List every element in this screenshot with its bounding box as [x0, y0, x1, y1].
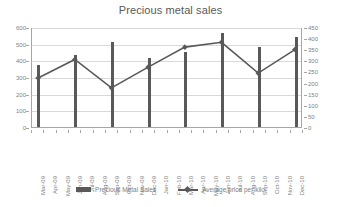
y-axis-right-tick: [304, 84, 307, 85]
x-axis-tick: [43, 130, 44, 133]
x-axis-tick: [80, 130, 81, 133]
y-axis-right-tick: [304, 95, 307, 96]
legend-label: Precious Metal Sales: [95, 186, 156, 193]
x-axis-tick: [191, 130, 192, 133]
y-axis-left-tick-label: 200: [16, 92, 26, 98]
y-axis-right-tick: [304, 61, 307, 62]
y-axis-right-tick-label: 250: [308, 69, 318, 75]
x-axis-tick: [265, 130, 266, 133]
y-axis-right-tick: [304, 50, 307, 51]
y-axis-right-tick-label: 100: [308, 103, 318, 109]
y-axis-right-tick: [304, 39, 307, 40]
x-axis-tick: [203, 130, 204, 133]
plot-area: [31, 28, 302, 128]
y-axis-left-tick: [26, 111, 29, 112]
y-axis-left-tick: [26, 95, 29, 96]
y-axis-left-tick: [26, 78, 29, 79]
line-series-average-price-per-kilo: [32, 28, 301, 127]
y-axis-right-tick: [304, 28, 307, 29]
y-axis-right-tick-label: 200: [308, 81, 318, 87]
y-axis-right-tick: [304, 106, 307, 107]
x-axis-tick: [302, 130, 303, 133]
y-axis-right-tick: [304, 72, 307, 73]
x-axis-tick: [179, 130, 180, 133]
chart-container: Precious metal sales 0100200300400500600…: [0, 0, 341, 207]
x-axis-tick: [117, 130, 118, 133]
y-axis-right-tick-label: 0: [308, 125, 311, 131]
y-axis-left-tick-label: 300: [16, 75, 26, 81]
y-axis-right-tick-label: 50: [308, 114, 315, 120]
x-axis-tick: [253, 130, 254, 133]
x-axis-tick: [130, 130, 131, 133]
y-axis-right-tick-label: 300: [308, 58, 318, 64]
y-axis-left-tick-label: 500: [16, 42, 26, 48]
y-axis-left-tick: [26, 45, 29, 46]
x-axis-tick: [240, 130, 241, 133]
y-axis-left-tick-label: 400: [16, 58, 26, 64]
y-axis-right-tick-label: 150: [308, 92, 318, 98]
x-axis-labels: Mar-09Apr-09May-09Jun-09Jul-09Aug-09Sep-…: [31, 130, 302, 178]
y-axis-left-tick-label: 600: [16, 25, 26, 31]
x-axis-tick: [142, 130, 143, 133]
x-axis-tick: [31, 130, 32, 133]
x-axis-tick: [216, 130, 217, 133]
legend-item-precious-metal-sales: Precious Metal Sales: [76, 186, 156, 193]
y-axis-left-tick: [26, 28, 29, 29]
y-axis-left-tick-label: 100: [16, 108, 26, 114]
y-axis-left: 0100200300400500600: [0, 28, 29, 128]
legend-item-average-price-per-kilo: Average price per kilo: [178, 186, 265, 193]
x-axis-tick: [105, 130, 106, 133]
x-axis-tick: [56, 130, 57, 133]
y-axis-right-tick-label: 400: [308, 36, 318, 42]
bar-swatch-icon: [76, 187, 91, 192]
x-axis-tick: [68, 130, 69, 133]
y-axis-right-tick: [304, 117, 307, 118]
x-axis-tick: [167, 130, 168, 133]
line-swatch-icon: [178, 186, 198, 193]
x-axis-tick: [154, 130, 155, 133]
y-axis-right-tick-label: 450: [308, 25, 318, 31]
chart-legend: Precious Metal Sales Average price per k…: [0, 186, 341, 193]
y-axis-left-tick: [26, 61, 29, 62]
line-marker: [35, 75, 41, 81]
chart-title: Precious metal sales: [0, 4, 341, 16]
x-axis-tick: [228, 130, 229, 133]
legend-label: Average price per kilo: [202, 186, 265, 193]
x-axis-tick: [290, 130, 291, 133]
y-axis-right: 050100150200250300350400450: [304, 28, 340, 128]
x-axis-tick: [277, 130, 278, 133]
y-axis-right-tick: [304, 128, 307, 129]
y-axis-right-tick-label: 350: [308, 47, 318, 53]
x-axis-tick: [93, 130, 94, 133]
y-axis-left-tick: [26, 128, 29, 129]
